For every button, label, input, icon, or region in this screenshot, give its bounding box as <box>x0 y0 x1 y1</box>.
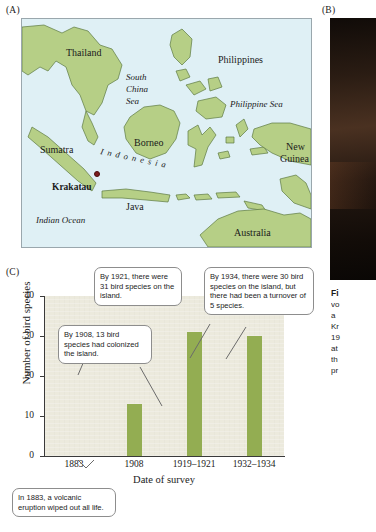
caption-line-3: Kr <box>331 322 339 331</box>
panel-b-letter: (B) <box>322 5 335 15</box>
map-frame: Thailand Philippines South China Sea Phi… <box>21 18 312 248</box>
caption-line-1: vo <box>331 300 339 309</box>
panel-a-letter: (A) <box>6 5 20 15</box>
volcano-photograph <box>330 18 376 280</box>
callout-1934: By 1934, there were 30 bird species on t… <box>204 267 314 315</box>
caption-line-6: th <box>331 355 338 364</box>
panel-a-map: (A) <box>0 0 318 268</box>
caption-line-4: 19 <box>331 333 340 342</box>
panel-b-photo: (B) <box>318 0 370 268</box>
caption-line-2: a <box>331 311 335 320</box>
krakatau-marker-icon <box>94 171 100 177</box>
caption-line-5: at <box>331 344 338 353</box>
figure-caption: Fi vo a Kr 19 at th pr <box>331 288 375 378</box>
callout-1883: In 1883, a volcanic eruption wiped out a… <box>12 488 116 517</box>
map-graphic <box>22 19 311 247</box>
callout-1921: By 1921, there were 31 bird species on t… <box>94 267 182 306</box>
caption-line-7: pr <box>331 366 338 375</box>
panel-c-chart: (C) 010203040 Number of bird species 188… <box>0 265 318 532</box>
caption-lead: Fi <box>331 288 339 298</box>
callout-1908: By 1908, 13 bird species had colonized t… <box>58 325 152 364</box>
